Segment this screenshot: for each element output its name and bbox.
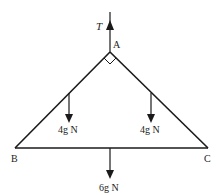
force-diagram: T A 4g N 4g N 6g N B C [0,0,222,195]
arrowhead-down-icon [147,114,155,123]
weight-ac-label: 4g N [140,124,160,135]
tension-label: T [96,20,103,32]
arrowhead-down-icon [106,170,114,179]
vertex-c-label: C [204,153,211,164]
weight-bc-label: 6g N [99,182,119,193]
weight-arrow-bc [106,148,114,179]
triangle-abc [15,52,208,148]
arrowhead-up-icon [106,20,114,30]
right-angle-marker [104,58,116,64]
vertex-a-label: A [113,39,121,50]
vertex-b-label: B [11,153,18,164]
weight-arrow-ac [147,93,155,123]
weight-ab-label: 4g N [58,124,78,135]
arrowhead-down-icon [65,114,73,123]
weight-arrow-ab [65,93,73,123]
